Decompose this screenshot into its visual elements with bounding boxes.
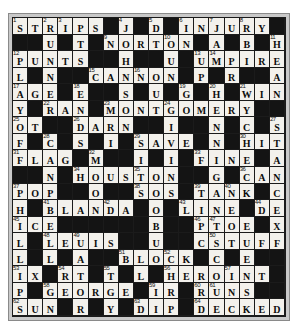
crossword-cell[interactable]: 59I — [149, 283, 164, 300]
crossword-cell[interactable]: A — [89, 117, 104, 134]
crossword-cell[interactable]: 46P — [194, 217, 209, 234]
crossword-cell[interactable]: 36C — [240, 167, 255, 184]
crossword-cell[interactable]: O — [73, 283, 88, 300]
crossword-cell[interactable]: O — [149, 200, 164, 217]
crossword-cell[interactable]: 47T — [209, 217, 224, 234]
crossword-cell[interactable]: C — [240, 117, 255, 134]
crossword-cell[interactable]: 48L — [43, 233, 58, 250]
crossword-cell[interactable]: 18E — [73, 84, 88, 101]
crossword-cell[interactable]: O — [149, 167, 164, 184]
crossword-cell[interactable]: L — [13, 68, 28, 85]
crossword-cell[interactable]: N — [164, 167, 179, 184]
crossword-cell[interactable]: G — [58, 150, 73, 167]
crossword-cell[interactable]: 33F — [194, 150, 209, 167]
crossword-cell[interactable]: P — [225, 51, 240, 68]
crossword-cell[interactable]: I — [255, 84, 270, 101]
crossword-cell[interactable]: N — [119, 117, 134, 134]
crossword-cell[interactable]: K — [240, 184, 255, 201]
crossword-cell[interactable]: 38S — [134, 184, 149, 201]
crossword-cell[interactable]: T — [73, 35, 88, 52]
crossword-cell[interactable]: F — [270, 233, 285, 250]
crossword-cell[interactable]: 27S — [270, 117, 285, 134]
crossword-cell[interactable]: 23M — [104, 101, 119, 118]
crossword-cell[interactable]: G — [209, 167, 224, 184]
crossword-cell[interactable]: A — [43, 150, 58, 167]
crossword-cell[interactable]: N — [225, 283, 240, 300]
crossword-cell[interactable]: C — [225, 299, 240, 316]
crossword-cell[interactable]: O — [119, 35, 134, 52]
crossword-cell[interactable]: E — [255, 299, 270, 316]
crossword-cell[interactable]: I — [149, 299, 164, 316]
crossword-cell[interactable]: I — [194, 200, 209, 217]
crossword-cell[interactable]: R — [225, 101, 240, 118]
crossword-cell[interactable]: R — [194, 266, 209, 283]
crossword-cell[interactable]: 22R — [43, 101, 58, 118]
crossword-cell[interactable]: N — [119, 68, 134, 85]
crossword-cell[interactable]: 12P — [13, 51, 28, 68]
crossword-cell[interactable]: M — [194, 101, 209, 118]
crossword-cell[interactable]: C — [270, 184, 285, 201]
crossword-cell[interactable]: E — [119, 283, 134, 300]
crossword-cell[interactable]: 6I — [179, 18, 194, 35]
crossword-cell[interactable]: 40N — [225, 184, 240, 201]
crossword-cell[interactable]: P — [73, 18, 88, 35]
crossword-cell[interactable]: 5D — [149, 18, 164, 35]
crossword-cell[interactable]: 55T — [104, 266, 119, 283]
crossword-cell[interactable]: 37P — [13, 184, 28, 201]
crossword-cell[interactable]: O — [209, 266, 224, 283]
crossword-cell[interactable]: N — [73, 101, 88, 118]
crossword-cell[interactable]: L — [134, 266, 149, 283]
crossword-cell[interactable]: E — [209, 101, 224, 118]
crossword-cell[interactable]: E — [43, 84, 58, 101]
crossword-cell[interactable]: N — [43, 51, 58, 68]
crossword-cell[interactable]: N — [240, 266, 255, 283]
crossword-cell[interactable]: A — [104, 68, 119, 85]
crossword-cell[interactable]: K — [179, 250, 194, 267]
crossword-cell[interactable]: U — [149, 84, 164, 101]
crossword-cell[interactable]: L — [58, 200, 73, 217]
crossword-cell[interactable]: 60R — [194, 283, 209, 300]
crossword-cell[interactable]: N — [270, 167, 285, 184]
crossword-cell[interactable]: 29S — [134, 134, 149, 151]
crossword-cell[interactable]: U — [225, 18, 240, 35]
crossword-cell[interactable]: 28C — [43, 134, 58, 151]
crossword-cell[interactable]: 51B — [119, 250, 134, 267]
crossword-cell[interactable]: I — [164, 117, 179, 134]
crossword-cell[interactable]: S — [73, 51, 88, 68]
crossword-cell[interactable]: T — [28, 18, 43, 35]
crossword-cell[interactable]: A — [209, 184, 224, 201]
crossword-cell[interactable]: 64D — [194, 299, 209, 316]
crossword-cell[interactable]: 10O — [164, 35, 179, 52]
crossword-cell[interactable]: 13U — [194, 51, 209, 68]
crossword-cell[interactable]: 19G — [179, 84, 194, 101]
crossword-cell[interactable]: 25O — [13, 117, 28, 134]
crossword-cell[interactable]: 8R — [240, 18, 255, 35]
crossword-cell[interactable]: E — [209, 299, 224, 316]
crossword-cell[interactable]: N — [134, 101, 149, 118]
crossword-cell[interactable]: T — [149, 101, 164, 118]
crossword-cell[interactable]: R — [164, 283, 179, 300]
crossword-cell[interactable]: H — [119, 51, 134, 68]
crossword-cell[interactable]: N — [43, 167, 58, 184]
crossword-cell[interactable]: U — [240, 233, 255, 250]
crossword-cell[interactable]: L — [13, 250, 28, 267]
crossword-cell[interactable]: 43L — [179, 200, 194, 217]
crossword-cell[interactable]: F — [255, 233, 270, 250]
crossword-cell[interactable]: O — [89, 167, 104, 184]
crossword-cell[interactable]: R — [89, 283, 104, 300]
crossword-cell[interactable]: A — [73, 250, 88, 267]
crossword-cell[interactable]: S — [119, 84, 134, 101]
crossword-cell[interactable]: X — [270, 217, 285, 234]
crossword-cell[interactable]: A — [119, 200, 134, 217]
crossword-cell[interactable]: S — [104, 233, 119, 250]
crossword-cell[interactable]: 39T — [194, 184, 209, 201]
crossword-cell[interactable]: T — [28, 117, 43, 134]
crossword-cell[interactable]: P — [13, 283, 28, 300]
crossword-cell[interactable]: P — [194, 68, 209, 85]
crossword-cell[interactable]: E — [270, 51, 285, 68]
crossword-cell[interactable]: S — [119, 167, 134, 184]
crossword-cell[interactable]: O — [225, 217, 240, 234]
crossword-cell[interactable]: E — [43, 217, 58, 234]
crossword-cell[interactable]: O — [149, 250, 164, 267]
crossword-cell[interactable]: T — [225, 233, 240, 250]
